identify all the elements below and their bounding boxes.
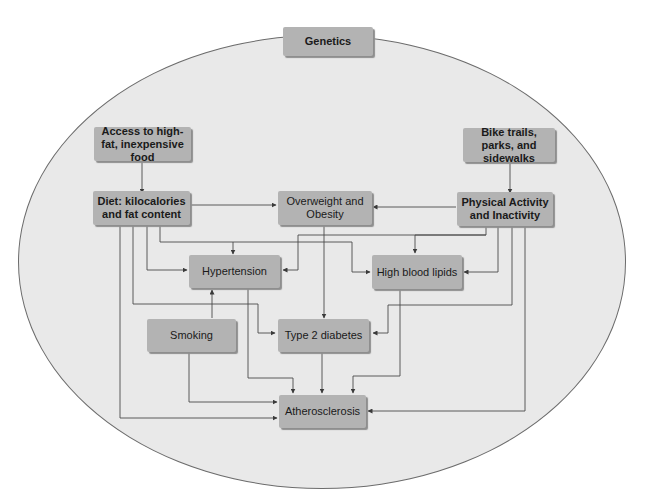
node-diet: Diet: kilocalories and fat content bbox=[93, 191, 190, 225]
diagram-canvas: Genetics Access to high-fat, inexpensive… bbox=[0, 0, 645, 504]
edge-diet-hypertension-top bbox=[160, 225, 233, 254]
node-physical-activity: Physical Activity and Inactivity bbox=[457, 192, 553, 226]
node-overweight: Overweight and Obesity bbox=[278, 191, 372, 225]
node-smoking-label: Smoking bbox=[170, 329, 213, 342]
node-genetics: Genetics bbox=[283, 27, 373, 56]
node-bike-trails-label: Bike trails, parks, and sidewalks bbox=[467, 126, 551, 165]
node-high-blood-lipids: High blood lipids bbox=[372, 255, 462, 289]
node-type2-diabetes-label: Type 2 diabetes bbox=[285, 329, 363, 342]
edge-physical-lipids-right bbox=[464, 225, 498, 272]
connector-lines bbox=[0, 0, 645, 504]
node-access-food-label: Access to high-fat, inexpensive food bbox=[98, 125, 187, 164]
node-atherosclerosis-label: Atherosclerosis bbox=[285, 405, 360, 418]
node-genetics-label: Genetics bbox=[305, 35, 351, 48]
edge-diet-hypertension bbox=[147, 225, 187, 270]
node-bike-trails: Bike trails, parks, and sidewalks bbox=[463, 128, 555, 162]
node-smoking: Smoking bbox=[147, 319, 236, 352]
node-hypertension: Hypertension bbox=[189, 255, 280, 288]
node-access-food: Access to high-fat, inexpensive food bbox=[94, 127, 191, 161]
edge-physical-lipids-top bbox=[415, 235, 486, 253]
node-atherosclerosis: Atherosclerosis bbox=[279, 395, 366, 428]
edge-smoking-athero bbox=[189, 353, 277, 402]
node-diet-label: Diet: kilocalories and fat content bbox=[97, 195, 186, 221]
node-physical-activity-label: Physical Activity and Inactivity bbox=[461, 196, 549, 222]
node-hypertension-label: Hypertension bbox=[202, 265, 267, 278]
node-overweight-label: Overweight and Obesity bbox=[282, 195, 368, 221]
edge-physical-athero bbox=[368, 225, 525, 411]
node-type2-diabetes: Type 2 diabetes bbox=[278, 319, 369, 352]
node-high-blood-lipids-label: High blood lipids bbox=[377, 266, 458, 279]
